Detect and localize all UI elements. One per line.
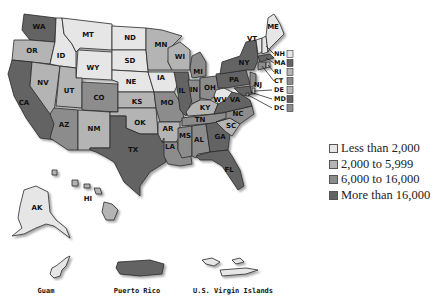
- callout-swatch-nh: [287, 51, 293, 58]
- callout-list: NHMARICTDEMDDC: [274, 50, 293, 112]
- state-hi-maui[interactable]: [94, 188, 102, 194]
- legend-label: 2,000 to 5,999: [341, 157, 413, 173]
- svg-text:AZ: AZ: [59, 121, 70, 129]
- svg-text:IN: IN: [190, 86, 199, 94]
- legend-swatch: [329, 191, 338, 200]
- territory-usvi-stthomas[interactable]: [202, 258, 220, 266]
- svg-text:MN: MN: [155, 41, 168, 49]
- svg-text:AK: AK: [32, 204, 43, 212]
- svg-text:OH: OH: [204, 84, 216, 92]
- state-hi-kauai[interactable]: [72, 180, 78, 186]
- callout-label-ri: RI: [274, 68, 281, 76]
- svg-text:MI: MI: [193, 68, 203, 76]
- territory-label-guam: Guam: [38, 287, 55, 295]
- legend-item: More than 16,000: [329, 188, 430, 204]
- svg-text:MS: MS: [179, 132, 191, 140]
- state-fl[interactable]: [196, 150, 244, 190]
- svg-text:NV: NV: [37, 79, 49, 87]
- svg-text:FL: FL: [224, 166, 234, 174]
- state-hi-oahu[interactable]: [84, 184, 90, 188]
- legend-label: Less than 2,000: [341, 141, 420, 157]
- svg-text:MO: MO: [161, 99, 174, 107]
- callout-swatch-md: [287, 96, 293, 103]
- territory-label-puerto-rico: Puerto Rico: [114, 287, 160, 295]
- svg-text:ME: ME: [267, 23, 279, 31]
- svg-text:GA: GA: [214, 133, 226, 141]
- callout-label-de: DE: [274, 86, 284, 94]
- non-contiguous: [12, 170, 118, 238]
- svg-text:AL: AL: [194, 136, 204, 144]
- state-ms[interactable]: [178, 126, 192, 158]
- territory-guam[interactable]: [50, 256, 70, 278]
- callout-swatch-ma: [287, 60, 293, 67]
- svg-text:MT: MT: [82, 31, 94, 39]
- svg-text:IA: IA: [157, 74, 166, 82]
- territories: [50, 256, 258, 278]
- svg-text:KY: KY: [200, 104, 211, 112]
- svg-text:AR: AR: [163, 125, 174, 133]
- state-ak[interactable]: [12, 186, 70, 238]
- callout-swatch-ri: [287, 69, 293, 76]
- territory-usvi-stcroix[interactable]: [220, 268, 258, 276]
- legend-swatch: [329, 144, 338, 153]
- callout-label-md: MD: [274, 95, 286, 103]
- svg-text:ND: ND: [124, 34, 136, 42]
- callout-swatch-de: [287, 87, 293, 94]
- territory-puerto-rico[interactable]: [116, 260, 164, 276]
- svg-text:TN: TN: [195, 116, 206, 124]
- svg-text:NM: NM: [88, 125, 101, 133]
- svg-text:CO: CO: [93, 94, 104, 102]
- svg-text:HI: HI: [84, 195, 92, 203]
- legend-item: 2,000 to 5,999: [329, 157, 430, 173]
- svg-text:UT: UT: [64, 87, 75, 95]
- svg-text:WA: WA: [33, 23, 46, 31]
- legend-label: 6,000 to 16,000: [341, 172, 419, 188]
- svg-text:PA: PA: [229, 76, 239, 84]
- svg-text:WY: WY: [87, 64, 101, 72]
- legend-item: Less than 2,000: [329, 141, 430, 157]
- svg-text:CA: CA: [19, 99, 30, 107]
- callout-label-dc: DC: [274, 104, 284, 112]
- callout-swatch-ct: [287, 78, 293, 85]
- legend: Less than 2,000 2,000 to 5,999 6,000 to …: [329, 141, 430, 203]
- svg-text:NJ: NJ: [254, 81, 262, 89]
- svg-text:WI: WI: [175, 53, 185, 61]
- state-hi[interactable]: [102, 202, 118, 220]
- callout-label-nh: NH: [274, 50, 285, 58]
- svg-text:SD: SD: [125, 57, 136, 65]
- contiguous-us: [8, 14, 284, 196]
- svg-text:OK: OK: [134, 119, 146, 127]
- callout-label-ct: CT: [274, 77, 284, 85]
- legend-swatch: [329, 175, 338, 184]
- svg-text:NC: NC: [233, 110, 244, 118]
- svg-text:ID: ID: [57, 52, 66, 60]
- svg-text:WV: WV: [213, 96, 227, 104]
- legend-swatch: [329, 160, 338, 169]
- callout-label-ma: MA: [274, 59, 286, 67]
- svg-text:NY: NY: [239, 59, 251, 67]
- legend-label: More than 16,000: [341, 188, 430, 204]
- state-ny[interactable]: [220, 40, 258, 74]
- svg-text:NE: NE: [126, 78, 137, 86]
- svg-text:LA: LA: [165, 143, 175, 151]
- state-az[interactable]: [50, 108, 78, 150]
- svg-text:TX: TX: [128, 146, 139, 154]
- territory-label-usvi: U.S. Virgin Islands: [193, 287, 273, 295]
- territory-usvi-stjohn[interactable]: [232, 258, 244, 264]
- svg-text:SC: SC: [226, 122, 236, 130]
- callout-swatch-dc: [287, 105, 293, 112]
- state-me[interactable]: [266, 14, 284, 52]
- svg-text:VT: VT: [247, 35, 257, 43]
- svg-text:IL: IL: [178, 87, 186, 95]
- svg-text:KS: KS: [132, 98, 142, 106]
- legend-item: 6,000 to 16,000: [329, 172, 430, 188]
- state-hi-niihau[interactable]: [52, 170, 57, 175]
- svg-text:VA: VA: [230, 96, 241, 104]
- svg-text:OR: OR: [26, 47, 38, 55]
